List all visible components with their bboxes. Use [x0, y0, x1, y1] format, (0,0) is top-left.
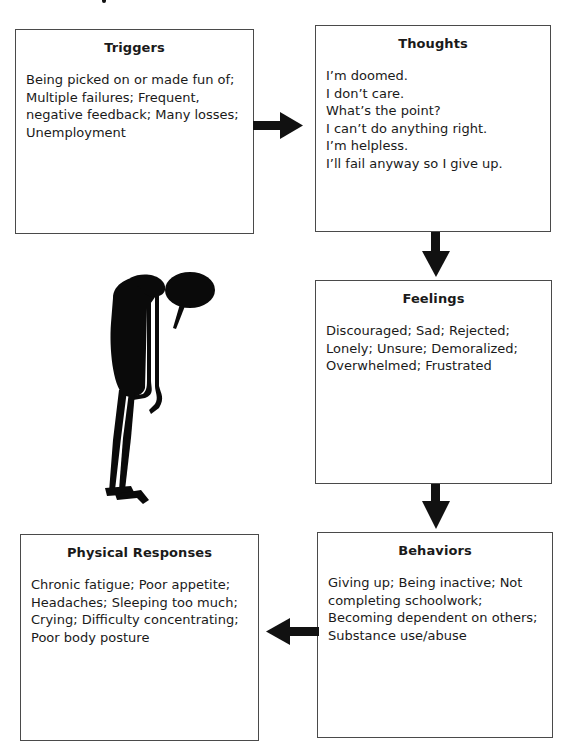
text-line: I can’t do anything right. — [326, 120, 544, 138]
slumped-figure-illustration — [85, 268, 225, 518]
text-line: Becoming dependent on others; — [328, 609, 546, 627]
arrow-right-icon — [253, 111, 305, 141]
behaviors-title: Behaviors — [318, 543, 552, 558]
text-line: negative feedback; Many losses; — [26, 106, 247, 124]
arrow-down-icon — [421, 232, 451, 278]
text-line: Being picked on or made fun of; — [26, 71, 247, 89]
thoughts-box: Thoughts I’m doomed. I don’t care. What’… — [315, 25, 551, 232]
behaviors-text: Giving up; Being inactive; Not completin… — [328, 574, 552, 644]
text-line: Multiple failures; Frequent, — [26, 89, 247, 107]
triggers-text: Being picked on or made fun of; Multiple… — [26, 71, 253, 141]
speech-bubble-icon — [165, 272, 215, 308]
thoughts-text: I’m doomed. I don’t care. What’s the poi… — [326, 67, 550, 172]
text-line: I don’t care. — [326, 85, 544, 103]
text-line: Substance use/abuse — [328, 627, 546, 645]
text-line: Giving up; Being inactive; Not — [328, 574, 546, 592]
triggers-title: Triggers — [16, 40, 253, 55]
cropped-title-fragment — [102, 0, 106, 3]
physical-responses-title: Physical Responses — [21, 545, 258, 560]
text-line: What’s the point? — [326, 102, 544, 120]
text-line: Unemployment — [26, 124, 247, 142]
physical-responses-box: Physical Responses Chronic fatigue; Poor… — [20, 534, 259, 741]
text-line: Poor body posture — [31, 629, 252, 647]
arrow-down-icon — [421, 484, 451, 530]
text-line: Chronic fatigue; Poor appetite; — [31, 576, 252, 594]
feelings-text: Discouraged; Sad; Rejected; Lonely; Unsu… — [326, 322, 551, 375]
feelings-title: Feelings — [316, 291, 551, 306]
feelings-box: Feelings Discouraged; Sad; Rejected; Lon… — [315, 280, 552, 484]
text-line: I’m doomed. — [326, 67, 544, 85]
text-line: Headaches; Sleeping too much; — [31, 594, 252, 612]
text-line: I’m helpless. — [326, 137, 544, 155]
arrow-left-icon — [265, 617, 319, 647]
text-line: Discouraged; Sad; Rejected; — [326, 322, 545, 340]
text-line: Overwhelmed; Frustrated — [326, 357, 545, 375]
physical-responses-text: Chronic fatigue; Poor appetite; Headache… — [31, 576, 258, 646]
text-line: completing schoolwork; — [328, 592, 546, 610]
text-line: Crying; Difficulty concentrating; — [31, 611, 252, 629]
text-line: I’ll fail anyway so I give up. — [326, 155, 544, 173]
thoughts-title: Thoughts — [316, 36, 550, 51]
behaviors-box: Behaviors Giving up; Being inactive; Not… — [317, 532, 553, 738]
triggers-box: Triggers Being picked on or made fun of;… — [15, 29, 254, 234]
text-line: Lonely; Unsure; Demoralized; — [326, 340, 545, 358]
